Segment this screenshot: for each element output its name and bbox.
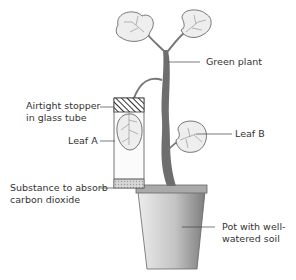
label-pot-line1: Pot with well- <box>222 221 285 233</box>
airtight-stopper <box>114 98 144 112</box>
branch-to-leaf-a <box>134 79 162 98</box>
label-substance-line2: carbon dioxide <box>10 194 80 206</box>
label-leaf-a: Leaf A <box>68 135 98 147</box>
top-right-leaf <box>181 10 211 38</box>
label-leaf-b: Leaf B <box>235 128 265 140</box>
leaf-b <box>176 121 206 152</box>
branch-left <box>148 35 165 52</box>
label-stopper-line2: in glass tube <box>26 112 87 124</box>
stem <box>162 50 177 186</box>
label-green-plant: Green plant <box>206 56 262 68</box>
co2-absorber <box>114 179 144 188</box>
glass-tube <box>114 98 144 188</box>
label-stopper-line1: Airtight stopper <box>26 100 101 112</box>
label-substance-line1: Substance to absorb <box>10 182 108 194</box>
branch-right <box>167 33 184 52</box>
label-pot-line2: watered soil <box>222 233 280 245</box>
top-left-leaf <box>116 12 153 41</box>
